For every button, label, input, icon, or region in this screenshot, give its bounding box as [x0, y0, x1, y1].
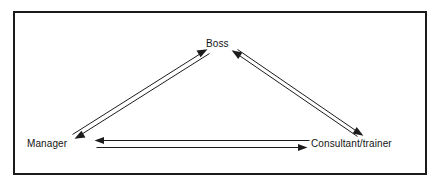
edge-consultant-to-boss — [232, 50, 358, 136]
edge-boss-to-manager — [75, 54, 210, 139]
edge-consultant-to-manager — [95, 137, 310, 144]
diagram-canvas: Boss Manager Consultant/trainer — [0, 0, 440, 188]
node-label-manager: Manager — [27, 138, 67, 149]
node-label-boss: Boss — [206, 38, 229, 49]
node-label-consultant: Consultant/trainer — [311, 138, 392, 149]
edge-boss-to-consultant — [238, 50, 364, 136]
edge-manager-to-consultant — [97, 144, 308, 151]
arrowhead-into-consultant-horizontal — [298, 144, 308, 151]
edge-manager-to-boss — [73, 49, 208, 134]
arrowhead-into-manager-horizontal — [95, 137, 105, 144]
diagram-edges-layer — [0, 0, 440, 188]
